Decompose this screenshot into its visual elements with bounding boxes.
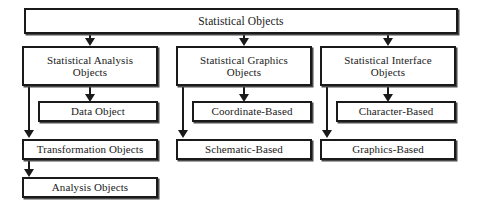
node-label: Statistical Graphics Objects — [197, 54, 291, 79]
arrowhead-analysis-to-transformation — [24, 130, 34, 138]
node-label: Statistical Objects — [195, 15, 286, 28]
node-transformation-objects: Transformation Objects — [22, 139, 158, 160]
node-label: Statistical Analysis Objects — [44, 54, 136, 79]
node-character-based: Character-Based — [336, 101, 456, 122]
edge-graphics-to-schematic — [182, 86, 184, 132]
node-statistical-analysis-objects: Statistical Analysis Objects — [22, 46, 158, 86]
node-schematic-based: Schematic-Based — [176, 139, 312, 160]
node-label: Data Object — [68, 105, 128, 117]
node-graphics-based: Graphics-Based — [320, 139, 456, 160]
arrowhead-root-to-interface — [383, 38, 393, 46]
statistical-objects-diagram: Statistical Objects Statistical Analysis… — [0, 0, 478, 203]
node-coordinate-based: Coordinate-Based — [192, 101, 312, 122]
arrowhead-transformation-to-analysis-objects — [24, 169, 34, 177]
node-label: Schematic-Based — [202, 143, 286, 155]
node-statistical-interface-objects: Statistical Interface Objects — [320, 46, 456, 86]
node-statistical-graphics-objects: Statistical Graphics Objects — [176, 46, 312, 86]
node-label: Coordinate-Based — [208, 105, 295, 117]
node-label: Transformation Objects — [34, 143, 147, 155]
arrowhead-root-to-analysis — [85, 38, 95, 46]
edge-analysis-to-transformation — [28, 86, 30, 132]
node-data-object: Data Object — [38, 101, 158, 122]
node-statistical-objects: Statistical Objects — [24, 8, 458, 34]
edge-interface-to-graphics-based — [326, 86, 328, 132]
arrowhead-interface-to-graphics-based — [322, 130, 332, 138]
node-label: Character-Based — [356, 105, 437, 117]
node-label: Analysis Objects — [49, 181, 131, 193]
arrowhead-root-to-graphics — [239, 38, 249, 46]
node-label: Graphics-Based — [349, 143, 427, 155]
node-analysis-objects: Analysis Objects — [22, 177, 158, 198]
arrowhead-graphics-to-schematic — [178, 130, 188, 138]
node-label: Statistical Interface Objects — [341, 54, 434, 79]
